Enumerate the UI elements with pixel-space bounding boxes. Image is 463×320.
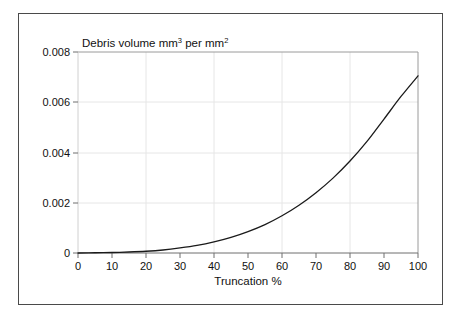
x-axis-label: Truncation % — [214, 275, 281, 287]
x-tick-label: 70 — [310, 260, 322, 272]
chart-title: Debris volume mm3 per mm2 — [82, 36, 228, 49]
figure-canvas: 00.0020.0040.0060.008 010203040506070809… — [0, 0, 463, 320]
x-tick-label: 80 — [344, 260, 356, 272]
x-tick-label: 20 — [140, 260, 152, 272]
x-tick-label: 0 — [75, 260, 81, 272]
y-tick-marks — [73, 52, 78, 253]
x-tick-label: 40 — [208, 260, 220, 272]
x-tick-label: 60 — [276, 260, 288, 272]
chart-title-mid: per mm — [182, 37, 224, 49]
y-tick-label: 0.008 — [42, 46, 70, 58]
x-tick-label: 100 — [409, 260, 427, 272]
chart-title-superscript-2: 2 — [224, 36, 228, 45]
y-tick-label: 0.002 — [42, 197, 70, 209]
x-axis-tick-labels: 0102030405060708090100 — [75, 260, 427, 272]
y-tick-label: 0 — [64, 247, 70, 259]
x-tick-label: 50 — [242, 260, 254, 272]
chart-title-lead: Debris volume mm — [82, 37, 178, 49]
x-tick-label: 30 — [174, 260, 186, 272]
y-axis-tick-labels: 00.0020.0040.0060.008 — [42, 46, 70, 259]
x-tick-label: 10 — [106, 260, 118, 272]
chart-plot: 00.0020.0040.0060.008 010203040506070809… — [0, 0, 463, 320]
y-tick-label: 0.004 — [42, 147, 70, 159]
x-tick-marks — [78, 253, 418, 258]
x-tick-label: 90 — [378, 260, 390, 272]
y-tick-label: 0.006 — [42, 96, 70, 108]
